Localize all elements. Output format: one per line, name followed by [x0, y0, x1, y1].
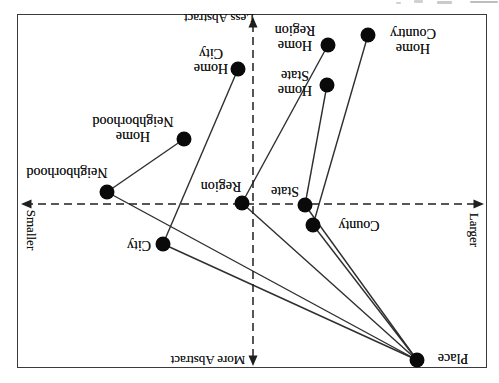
node-label-home-region: HomeRegion [275, 23, 315, 53]
point-home-country [361, 28, 376, 43]
point-state [298, 198, 313, 213]
node-label-line: Neighborhood [93, 114, 174, 129]
node-label-home-state: HomeState [278, 68, 312, 98]
node-label-line: Place [438, 351, 468, 366]
node-label-line: Home [275, 38, 315, 53]
node-label-line: State [271, 184, 299, 199]
axis-arrow-left-icon [474, 200, 485, 209]
node-label-place: Place [438, 351, 468, 366]
node-label-line: Home [194, 61, 228, 76]
node-label-line: Home [278, 83, 312, 98]
node-label-state: State [271, 184, 299, 199]
node-label-city: City [127, 238, 151, 253]
node-label-line: Region [275, 23, 315, 38]
node-label-line: County [338, 218, 379, 233]
chart-canvas [0, 0, 499, 383]
node-label-line: Country [390, 26, 436, 41]
axis-label-more-abstract: More Abstract [171, 352, 246, 368]
point-home-region [321, 38, 336, 53]
node-label-line: Home [93, 129, 174, 144]
point-neighborhood [100, 185, 115, 200]
point-county [306, 218, 321, 233]
point-home-state [320, 78, 335, 93]
axis-arrow-up-icon [249, 356, 258, 367]
axis-label-less-abstract: Less Abstract [184, 10, 254, 26]
node-label-line: Region [201, 179, 241, 194]
edge-county-home-country [313, 35, 368, 225]
point-place [410, 353, 425, 368]
scanned-figure-page: PlaceCountyStateRegionCityNeighborhoodHo… [0, 0, 499, 383]
edge-place-county [313, 225, 417, 360]
edge-place-city [163, 244, 417, 360]
node-label-region: Region [201, 179, 241, 194]
point-home-city [231, 62, 246, 77]
edge-place-region [242, 203, 417, 360]
node-label-home-country: HomeCountry [390, 26, 436, 56]
node-label-home-city: HomeCity [194, 46, 228, 76]
point-region [235, 196, 250, 211]
axis-label-smaller: Smaller [23, 210, 39, 250]
axis-arrow-right-icon [21, 200, 32, 209]
axis-label-larger: Larger [466, 213, 482, 247]
node-label-neighborhood: Neighborhood [27, 165, 108, 180]
point-home-neighborhood [177, 132, 192, 147]
point-city [156, 237, 171, 252]
node-label-line: Neighborhood [27, 165, 108, 180]
node-label-line: State [278, 68, 312, 83]
node-label-line: Home [390, 41, 436, 56]
edge-city-home-city [163, 69, 238, 244]
node-label-line: City [127, 238, 151, 253]
place-concept-scatter-figure: PlaceCountyStateRegionCityNeighborhoodHo… [0, 0, 499, 383]
node-label-home-neighborhood: HomeNeighborhood [93, 114, 174, 144]
node-label-line: City [194, 46, 228, 61]
edge-neighborhood-home-neighborhood [107, 139, 184, 192]
node-label-county: County [338, 218, 379, 233]
